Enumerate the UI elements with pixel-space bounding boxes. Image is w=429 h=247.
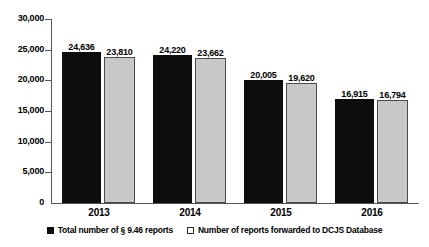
y-axis-label-5000: 5,000 — [0, 167, 44, 176]
bar-2015-forwarded[interactable] — [286, 83, 317, 203]
y-axis-label-0: 0 — [0, 198, 44, 207]
bar-2015-total[interactable] — [244, 80, 283, 203]
x-axis-label-2015: 2015 — [252, 208, 310, 218]
legend-swatch-light-icon — [187, 227, 194, 234]
bar-value-2013-total: 24,636 — [60, 43, 103, 52]
bar-value-2016-total: 16,915 — [333, 90, 376, 99]
y-axis-label-15000: 15,000 — [0, 106, 44, 115]
y-axis-label-30000: 30,000 — [0, 14, 44, 23]
y-axis-label-20000: 20,000 — [0, 75, 44, 84]
bar-value-2015-forwarded: 19,620 — [280, 74, 323, 83]
chart-legend: Total number of § 9.46 reports Number of… — [0, 226, 429, 235]
x-axis-label-2013: 2013 — [70, 208, 128, 218]
bar-2014-forwarded[interactable] — [195, 58, 226, 203]
y-axis-label-10000: 10,000 — [0, 137, 44, 146]
bar-value-2013-forwarded: 23,810 — [98, 48, 141, 57]
legend-item-forwarded[interactable]: Number of reports forwarded to DCJS Data… — [187, 226, 382, 235]
y-axis-label-25000: 25,000 — [0, 45, 44, 54]
bar-2013-total[interactable] — [62, 52, 101, 203]
bar-2016-total[interactable] — [335, 99, 374, 203]
bar-value-2015-total: 20,005 — [242, 71, 285, 80]
plot-area: 24,636 23,810 24,220 23,662 20,005 19,62… — [52, 19, 418, 203]
legend-item-total[interactable]: Total number of § 9.46 reports — [47, 226, 173, 235]
x-axis-line — [51, 203, 419, 204]
legend-label-forwarded: Number of reports forwarded to DCJS Data… — [198, 226, 382, 235]
legend-label-total: Total number of § 9.46 reports — [58, 226, 173, 235]
bar-2014-total[interactable] — [153, 55, 192, 204]
x-axis-label-2016: 2016 — [343, 208, 401, 218]
bar-value-2016-forwarded: 16,794 — [371, 91, 414, 100]
x-axis-label-2014: 2014 — [161, 208, 219, 218]
legend-swatch-dark-icon — [47, 227, 54, 234]
bar-value-2014-total: 24,220 — [151, 46, 194, 55]
bar-2013-forwarded[interactable] — [104, 57, 135, 203]
bar-2016-forwarded[interactable] — [377, 100, 408, 203]
bar-chart-figure: 30,000 25,000 20,000 15,000 10,000 5,000… — [0, 0, 429, 247]
bar-value-2014-forwarded: 23,662 — [189, 49, 232, 58]
